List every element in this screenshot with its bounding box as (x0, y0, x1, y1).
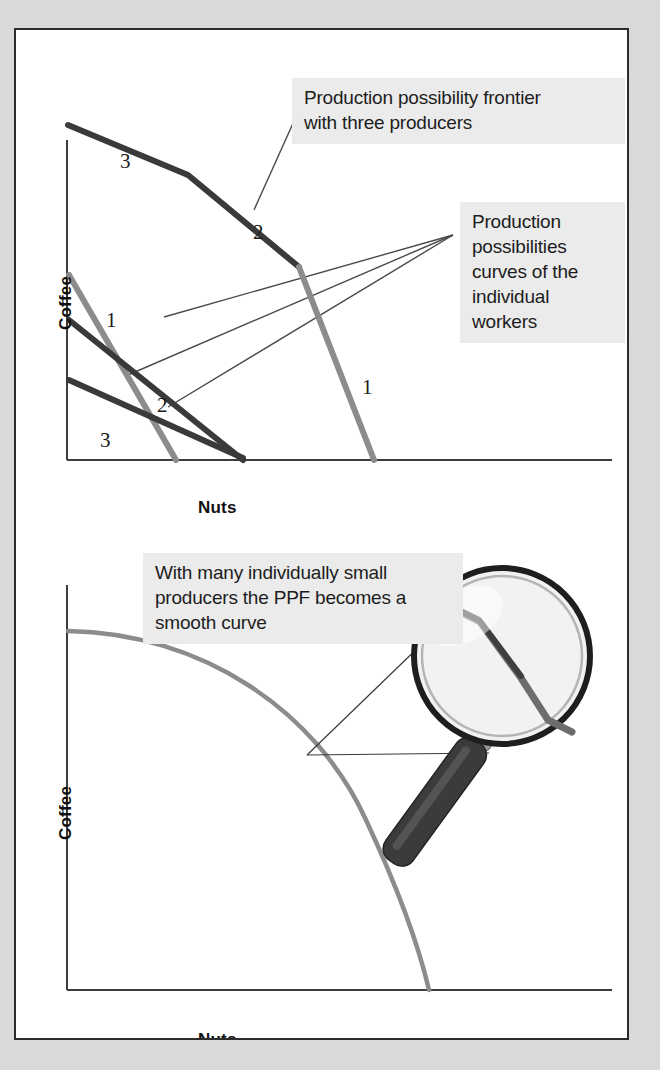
callout-smooth-curve: With many individually small producers t… (143, 553, 463, 644)
figure-root: Production possibility frontier with thr… (0, 0, 660, 1070)
curve-label-worker-3: 3 (100, 428, 111, 453)
curve-label-worker-1: 1 (106, 308, 117, 333)
worker-1-ppc-line (69, 275, 176, 460)
callout-individual-curves: Production possibilities curves of the i… (460, 202, 625, 343)
connector-to-worker-2 (128, 235, 453, 375)
magnifier-handle (378, 732, 492, 872)
connector-to-worker-3 (168, 235, 453, 407)
bottom-y-axis-title: Coffee (56, 786, 76, 840)
leader-line-upper (307, 640, 426, 755)
bottom-x-axis-title: Nuts (198, 1030, 237, 1040)
ppf-dark-segments (68, 125, 299, 267)
smooth-ppf-curve (68, 631, 429, 990)
connector-to-worker-1 (164, 235, 453, 317)
top-x-axis-title: Nuts (198, 498, 237, 518)
curve-label-worker-2: 2 (157, 393, 168, 418)
curve-label-ppf-segment-3: 3 (120, 149, 131, 174)
ppf-gray-segment-1 (299, 267, 374, 460)
curve-label-ppf-segment-1: 1 (362, 375, 373, 400)
top-y-axis-title: Coffee (56, 276, 76, 330)
callout-ppf-three-producers: Production possibility frontier with thr… (292, 78, 625, 144)
curve-label-ppf-segment-2: 2 (253, 220, 264, 245)
figure-card: Production possibility frontier with thr… (14, 28, 629, 1040)
figure-graphics (16, 30, 627, 1038)
